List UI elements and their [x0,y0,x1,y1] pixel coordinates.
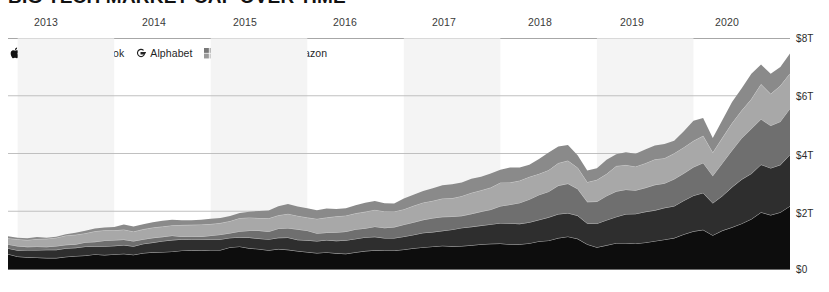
y-axis-tick-0: $0 [796,264,807,275]
stacked-area-chart [8,38,790,270]
x-axis-tick-2015: 2015 [233,16,257,28]
y-axis-tick-2T: $2T [796,208,814,219]
x-axis-tick-2014: 2014 [142,16,166,28]
y-axis-tick-4T: $4T [796,150,814,161]
y-axis-labels: $8T$6T$4T$2T$0 [796,0,829,292]
x-axis-year-labels: 20132014201520162017201820192020 [0,16,829,32]
chart-baseline [8,269,790,272]
x-axis-tick-2019: 2019 [620,16,644,28]
x-axis-tick-2017: 2017 [432,16,456,28]
y-axis-tick-6T: $6T [796,91,814,102]
y-axis-tick-8T: $8T [796,33,814,44]
x-axis-tick-2018: 2018 [528,16,552,28]
x-axis-tick-2020: 2020 [715,16,739,28]
page-title: BIG TECH MARKET CAP OVER TIME [8,0,346,7]
x-axis-tick-2013: 2013 [34,16,58,28]
x-axis-tick-2016: 2016 [333,16,357,28]
